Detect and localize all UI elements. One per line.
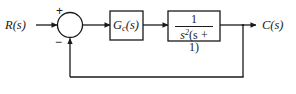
controlled-output-label: C(s) [262,19,284,32]
block-diagram: R(s) + − Gc(s) 1 s2(s + 1) C(s) [0,0,296,94]
controller-gain-symbol: G [113,18,122,32]
controller-block-label: Gc(s) [113,19,139,33]
controller-argument: (s) [126,18,139,32]
plant-denominator: s2(s + 1) [174,27,214,53]
diagram-canvas [0,0,296,94]
plant-numerator: 1 [174,13,214,26]
summing-junction-plus-sign: + [56,5,63,17]
denominator-factor: (s + 1) [189,28,208,54]
summing-junction-minus-sign: − [55,36,62,48]
reference-input-label: R(s) [5,19,26,32]
plant-transfer-function: 1 s2(s + 1) [174,13,214,53]
